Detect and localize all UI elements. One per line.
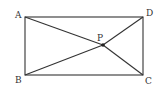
label-c: C	[145, 76, 152, 86]
point-p-dot	[101, 43, 105, 47]
label-a: A	[14, 10, 22, 20]
segment-pd	[103, 17, 143, 45]
segment-ap	[25, 17, 103, 45]
rectangle-diagram: A D B C P	[0, 0, 161, 92]
label-d: D	[146, 8, 153, 18]
label-b: B	[15, 75, 22, 85]
segment-bp	[25, 45, 103, 75]
rectangle-abcd	[25, 17, 143, 75]
segment-pc	[103, 45, 143, 75]
label-p: P	[97, 33, 103, 43]
